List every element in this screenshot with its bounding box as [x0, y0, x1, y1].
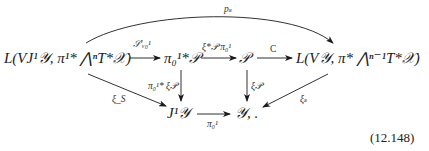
node-P: 𝒫 [239, 51, 250, 66]
node-left-space: L(VJ¹𝒴, π¹* ⋀ⁿT*𝒳) [4, 51, 131, 66]
commutative-diagram: L(VJ¹𝒴, π¹* ⋀ⁿT*𝒳) π₀¹*𝒫 𝒫 L(V𝒴, π* ⋀ⁿ⁻¹… [0, 0, 429, 151]
node-right-space: L(V𝒴, π* ⋀ⁿ⁻¹T*𝒳) [296, 51, 420, 66]
node-J1Y: J¹𝒴 [167, 106, 190, 121]
label-pi01: π₀¹ [207, 120, 218, 130]
label-xi-S: ξ_S [112, 95, 126, 105]
node-pullback-P: π₀¹*𝒫 [164, 51, 200, 66]
label-p-s: pₛ [224, 5, 232, 15]
label-pi01-xi-P: π₀¹* ξ𝒫 [148, 82, 177, 92]
arrow-right-to-Y [263, 74, 328, 107]
node-Y: 𝒴, . [235, 106, 258, 121]
label-C: C [270, 45, 276, 55]
label-xi-P-pi01: ξ*𝒫 π₀¹ [202, 43, 231, 53]
label-xi-s: ξₛ [300, 95, 307, 105]
equation-number: (12.148) [370, 131, 414, 144]
label-S-prime-v0: 𝒮′ᵥ₀¹ [133, 40, 151, 50]
label-xi-P: ξ𝒫 [251, 82, 262, 92]
arrow-top-curve [86, 17, 333, 43]
